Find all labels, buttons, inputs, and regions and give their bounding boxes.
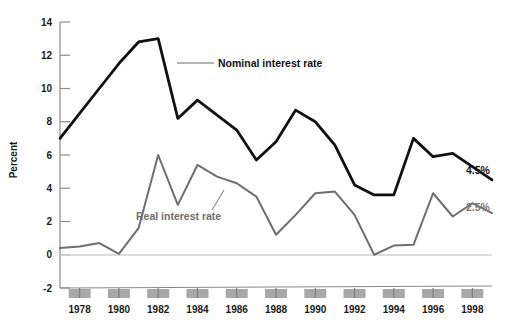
- x-axis-tick-label: 1998: [461, 304, 484, 315]
- x-axis-tick-label: 1994: [383, 304, 406, 315]
- x-axis-tick-label: 1992: [343, 304, 366, 315]
- y-axis-tick-label: 8: [46, 116, 52, 127]
- x-axis-tick-label: 1980: [108, 304, 131, 315]
- y-axis-tick-label: 2: [46, 216, 52, 227]
- x-axis-tick-label: 1982: [147, 304, 170, 315]
- y-axis-tick-label: 14: [41, 17, 53, 28]
- y-axis-tick-label: 4: [46, 183, 52, 194]
- real-end-value-label: 2.5%: [466, 201, 491, 213]
- y-axis-tick-label: 10: [41, 83, 53, 94]
- y-axis-tick-label: 0: [46, 249, 52, 260]
- y-axis-title: Percent: [8, 141, 19, 178]
- nominal-end-value-label: 4.5%: [466, 164, 491, 176]
- y-axis-tick-label: 6: [46, 150, 52, 161]
- x-axis-tick-label: 1988: [265, 304, 288, 315]
- y-axis-tick-label: -2: [43, 283, 52, 294]
- chart-canvas: 14121086420-2 19781980198219841986198819…: [0, 0, 505, 322]
- interest-rate-chart: 14121086420-2 19781980198219841986198819…: [0, 0, 505, 322]
- x-axis-tick-label: 1990: [304, 304, 327, 315]
- x-axis-tick-label: 1986: [226, 304, 249, 315]
- x-axis-tick-label: 1996: [422, 304, 445, 315]
- x-axis-tick-label: 1978: [69, 304, 92, 315]
- nominal-series-label: Nominal interest rate: [218, 57, 323, 69]
- chart-background: [0, 0, 505, 322]
- y-axis-tick-label: 12: [41, 50, 53, 61]
- x-axis-tick-label: 1984: [186, 304, 209, 315]
- real-series-label: Real interest rate: [136, 210, 221, 222]
